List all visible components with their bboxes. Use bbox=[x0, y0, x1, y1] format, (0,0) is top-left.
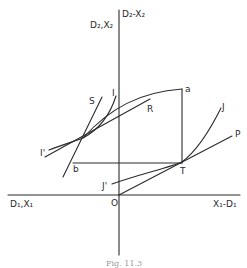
point-a-label: a bbox=[185, 84, 191, 94]
x-axis-left-label: D₁,X₁ bbox=[10, 199, 34, 209]
point-b-label: b bbox=[73, 164, 79, 174]
curve-J-label: J bbox=[221, 102, 225, 112]
line-S bbox=[63, 97, 102, 177]
curve-J-prime-label: J' bbox=[101, 181, 107, 191]
curve-P-label: P bbox=[235, 129, 241, 139]
curve-I-prime-label: I' bbox=[40, 148, 45, 158]
curve-R-label: R bbox=[147, 104, 153, 114]
line-P bbox=[119, 136, 232, 195]
x-axis-right-label: X₁-D₁ bbox=[213, 199, 237, 209]
curve-to-a bbox=[83, 89, 182, 138]
y-axis-left-label: D₂,X₂ bbox=[90, 20, 114, 30]
origin-label: O bbox=[111, 198, 118, 208]
figure-caption: Fig. 11.3 bbox=[106, 259, 142, 268]
point-T-label: T bbox=[179, 166, 186, 176]
curve-J bbox=[112, 108, 221, 184]
diagram-canvas: D₂-X₂ D₂,X₂ D₁,X₁ X₁-D₁ O a b T S I I' R… bbox=[0, 0, 247, 268]
line-R bbox=[45, 99, 150, 157]
y-axis-top-label: D₂-X₂ bbox=[122, 9, 146, 19]
curve-I-label: I bbox=[112, 88, 115, 98]
curve-S-label: S bbox=[89, 96, 95, 106]
